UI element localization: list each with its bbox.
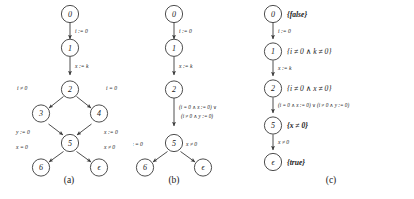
- assertion-c-5: {x ≠ 0}: [287, 121, 308, 130]
- node-b-6-label: 6: [143, 163, 147, 172]
- node-a-5-label: 5: [68, 139, 72, 148]
- edge-label-b-1-2: x := k: [178, 63, 193, 69]
- caption-c: (c): [326, 175, 337, 186]
- edge-label-a-4-5: x := 0: [103, 129, 118, 135]
- edge-a-5-6: [49, 152, 64, 163]
- edge-label-a-2-3: i ≠ 0: [17, 85, 27, 91]
- assertion-c-epsilon: {true}: [287, 158, 305, 167]
- node-a-2-label: 2: [68, 85, 72, 94]
- edge-label-a-5-6: x = 0: [15, 144, 28, 150]
- edge-label-b-0-1: i := 0: [179, 28, 192, 34]
- edge-label-a-1-2: x := k: [74, 63, 89, 69]
- edge-a-2-3: [49, 97, 64, 109]
- assertion-c-1: {i ≠ 0 ∧ k ≠ 0}: [287, 47, 331, 56]
- panel-b-control-flow-graph: 0 1 2 5 6 ϵ i := 0 x := k (i = 0 ∧ x := …: [133, 0, 268, 199]
- edge-a-5-eps: [77, 152, 92, 163]
- node-a-3-label: 3: [38, 109, 43, 118]
- figure-root: 0 1 2 3 4 5 6 ϵ i := 0 x := k i ≠ 0 i = …: [0, 0, 414, 199]
- node-a-4-label: 4: [97, 109, 101, 118]
- node-c-0-label: 0: [271, 10, 275, 19]
- node-b-1-label: 1: [172, 44, 176, 53]
- edge-label-b-2-5-line2: (i ≠ 0 ∧ y := 0): [181, 113, 213, 120]
- node-c-5-label: 5: [271, 121, 275, 130]
- edge-label-b-5-eps: x ≠ 0: [185, 141, 197, 147]
- assertion-c-2: {i ≠ 0 ∧ x ≠ 0}: [287, 84, 331, 93]
- edge-label-b-5-6: x = 0: [133, 141, 143, 147]
- node-b-5-label: 5: [172, 139, 176, 148]
- edge-b-5-eps: [181, 152, 196, 163]
- edge-a-3-5: [49, 124, 64, 135]
- node-a-0-label: 0: [68, 10, 72, 19]
- edge-label-a-3-5: y := 0: [15, 129, 30, 135]
- edge-label-a-2-4: i = 0: [106, 85, 117, 91]
- edge-label-c-2-5: (i = 0 ∧ x := 0) ∨ (i ≠ 0 ∧ y := 0): [278, 102, 349, 109]
- node-b-0-label: 0: [172, 10, 176, 19]
- edge-a-4-5: [77, 124, 92, 135]
- caption-b: (b): [168, 175, 179, 186]
- edge-label-c-1-2: x := k: [277, 65, 292, 71]
- node-b-2-label: 2: [172, 85, 176, 94]
- edge-b-5-6: [153, 152, 168, 163]
- edge-label-b-2-5-line1: (i = 0 ∧ x := 0) ∨: [179, 104, 217, 111]
- node-a-6-label: 6: [39, 163, 43, 172]
- edge-label-c-5-eps: x ≠ 0: [277, 139, 289, 145]
- edge-label-a-0-1: i := 0: [75, 28, 88, 34]
- edge-label-a-5-eps: x ≠ 0: [103, 144, 115, 150]
- node-a-1-label: 1: [68, 44, 72, 53]
- caption-a: (a): [64, 175, 75, 186]
- node-c-2-label: 2: [271, 84, 275, 93]
- node-c-1-label: 1: [271, 47, 275, 56]
- panel-a-control-flow-graph: 0 1 2 3 4 5 6 ϵ i := 0 x := k i ≠ 0 i = …: [0, 0, 140, 199]
- edge-label-c-0-1: i := 0: [278, 28, 291, 34]
- panel-c-annotated-graph: 0 {false} 1 {i ≠ 0 ∧ k ≠ 0} 2 {i ≠ 0 ∧ x…: [259, 0, 414, 199]
- assertion-c-0: {false}: [287, 10, 307, 19]
- edge-a-2-4: [77, 97, 92, 109]
